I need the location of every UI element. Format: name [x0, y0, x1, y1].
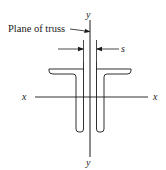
x-axis-label-right: x — [152, 91, 158, 102]
plane-leader-arrow — [70, 29, 90, 32]
double-angle-diagram: Plane of truss y y x x s — [0, 0, 166, 170]
y-axis-label-bottom: y — [85, 157, 91, 168]
plane-of-truss-label: Plane of truss — [8, 23, 65, 34]
x-axis-label-left: x — [21, 91, 27, 102]
y-axis-label-top: y — [85, 9, 91, 20]
spacing-label: s — [121, 43, 125, 54]
